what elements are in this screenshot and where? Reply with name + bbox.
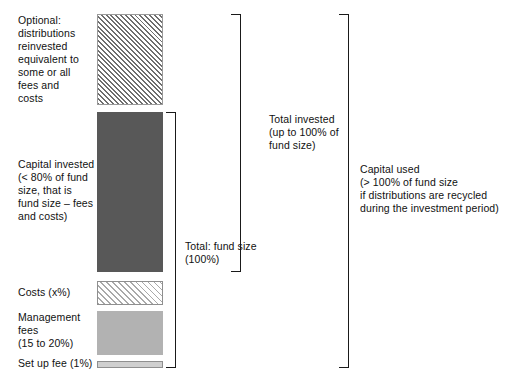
management-fees-bar (97, 311, 163, 355)
total-fund-size-bracket (166, 112, 176, 368)
costs-label: Costs (x%) (18, 286, 98, 299)
costs-bar (97, 281, 163, 305)
set-up-fee-label: Set up fee (1%) (18, 357, 104, 370)
capital-invested-bar (97, 112, 163, 272)
optional-distributions-label: Optional: distributions reinvested equiv… (18, 14, 96, 105)
capital-invested-label: Capital invested (< 80% of fund size, th… (18, 158, 98, 223)
capital-used-bracket (339, 14, 349, 368)
management-fees-label: Management fees (15 to 20%) (18, 311, 100, 350)
set-up-fee-bar (97, 361, 163, 368)
total-invested-label: Total invested (up to 100% of fund size) (269, 113, 365, 152)
fund-structure-diagram: Optional: distributions reinvested equiv… (0, 0, 514, 378)
total-invested-bracket (231, 14, 241, 272)
optional-distributions-bar (97, 14, 163, 105)
capital-used-label: Capital used (> 100% of fund size if dis… (360, 163, 512, 215)
